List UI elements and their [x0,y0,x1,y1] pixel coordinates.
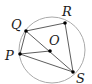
point-s [71,70,75,74]
label-s: S [76,71,85,84]
segment-rs [65,23,73,72]
label-o: O [49,33,60,48]
segments [20,23,73,72]
point-q [24,29,28,33]
label-r: R [61,4,72,19]
point-o [48,49,52,53]
geometry-diagram: Q R O P S [0,0,92,84]
segment-ps [20,54,73,72]
label-p: P [4,48,14,63]
point-p [18,52,22,56]
point-r [63,21,67,25]
segment-po [20,51,50,54]
label-q: Q [11,17,22,32]
